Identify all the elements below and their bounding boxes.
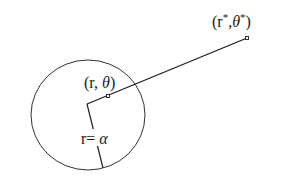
radius-label: r= α (81, 130, 108, 147)
inner-point-marker (107, 95, 110, 98)
outer-point-label: (r*,θ*) (212, 11, 251, 31)
polar-coordinate-diagram: (r*,θ*) (r, θ) r= α (0, 0, 281, 185)
outer-point-marker (246, 37, 249, 40)
inner-point-label: (r, θ) (84, 74, 115, 92)
ray-line (87, 38, 247, 104)
